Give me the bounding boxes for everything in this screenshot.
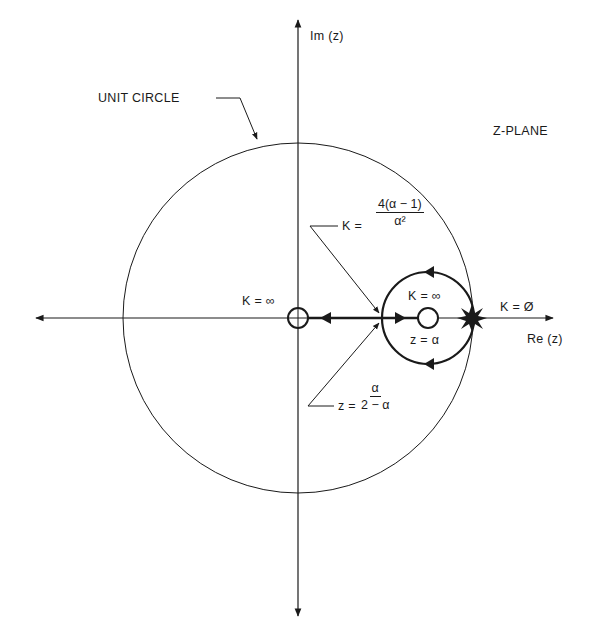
k-zero-label: K = Ø	[500, 300, 534, 314]
z-alpha-label: z = α	[410, 333, 439, 347]
root-locus-diagram	[0, 0, 610, 634]
breakin-k-fraction: 4(α − 1) α²	[376, 197, 424, 228]
breakin-z-numerator: α	[370, 381, 381, 397]
unit-circle-leader	[216, 98, 257, 139]
breakin-k-numerator: 4(α − 1)	[376, 197, 424, 213]
unit-circle-label: UNIT CIRCLE	[98, 91, 180, 105]
breakin-z-denominator: 2 − α	[361, 397, 389, 412]
k-infinity-origin-label: K = ∞	[242, 294, 275, 308]
zero-alpha-marker	[418, 308, 438, 328]
double-pole-star-icon	[457, 304, 487, 332]
locus-arrow-right-icon	[395, 312, 406, 324]
breakin-k-prefix: K =	[342, 219, 362, 233]
real-axis-label: Re (z)	[527, 332, 563, 346]
locus-arrow-bottom-icon	[424, 358, 434, 370]
locus-arrow-top-icon	[424, 266, 434, 278]
k-infinity-zero-label: K = ∞	[408, 289, 441, 303]
breakin-z-fraction: α 2 − α	[361, 381, 389, 412]
imag-axis-label: Im (z)	[310, 29, 344, 43]
breakin-k-leader	[310, 226, 379, 313]
z-plane-title: Z-PLANE	[493, 124, 548, 138]
locus-arrow-left-icon	[320, 312, 331, 324]
breakin-z-prefix: z =	[338, 399, 356, 413]
breakin-k-denominator: α²	[394, 213, 405, 228]
